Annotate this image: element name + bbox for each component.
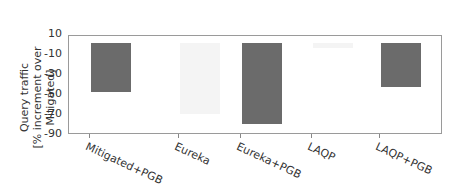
bar-laqp xyxy=(313,43,353,48)
x-tick xyxy=(311,134,312,138)
bar-mitigated-plus-pgb xyxy=(91,43,131,93)
x-tick-label: LAQP xyxy=(306,140,338,164)
x-tick xyxy=(240,134,241,138)
x-tick xyxy=(89,134,90,138)
x-tick xyxy=(178,134,179,138)
bar-laqp-plus-pgb xyxy=(381,43,421,88)
bar-eureka xyxy=(180,43,220,114)
x-tick-label: Mitigated+PGB xyxy=(84,140,165,187)
bar-eureka-plus-pgb xyxy=(242,43,282,124)
y-tick-label: -30 xyxy=(24,67,62,80)
x-tick-label: Eureka+PGB xyxy=(235,140,304,181)
y-tick-label: -90 xyxy=(24,127,62,140)
x-tick xyxy=(379,134,380,138)
y-tick-label: -10 xyxy=(24,47,62,60)
y-tick-label: -70 xyxy=(24,107,62,120)
x-tick-label: LAQP+PGB xyxy=(374,140,435,178)
y-tick-label: -50 xyxy=(24,87,62,100)
x-tick-label: Eureka xyxy=(173,140,213,168)
y-tick-label: 10 xyxy=(24,27,62,40)
